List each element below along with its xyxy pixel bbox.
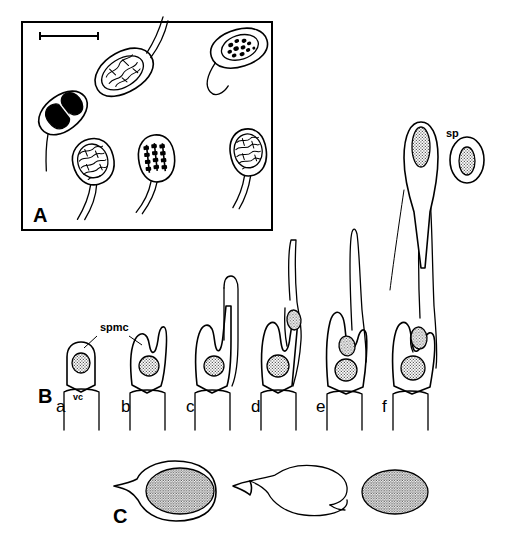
panel-c: C — [113, 461, 428, 527]
stage-e: e — [316, 229, 367, 430]
intact-spermatozoid — [114, 461, 216, 521]
free-spermatozoid-sp — [450, 137, 484, 183]
stage-e-nucleus — [335, 359, 357, 381]
stage-a: a vc — [56, 342, 99, 430]
panel-a: A — [14, 16, 279, 230]
cell-reticulate-right — [222, 127, 273, 210]
stage-c-nucleus — [204, 356, 224, 376]
stage-letter-d: d — [251, 397, 260, 416]
stage-letter-e: e — [316, 397, 325, 416]
stage-c-spermatocyte — [196, 306, 231, 393]
panel-a-letter: A — [33, 204, 47, 226]
stage-letter-f: f — [382, 397, 387, 416]
stage-b-nucleus — [139, 356, 159, 376]
scale-bar — [40, 32, 98, 40]
label-spmc: spmc — [100, 321, 129, 333]
stage-c-vegetative-cell — [195, 390, 230, 430]
stage-a-nucleus — [72, 353, 90, 373]
panel-b-letter: B — [38, 385, 52, 407]
figure-canvas: A sp a vc b c — [0, 0, 507, 559]
free-nucleus — [362, 470, 428, 514]
opened-envelope — [233, 465, 347, 515]
stage-d-vegetative-cell — [261, 390, 296, 430]
stage-d: d — [251, 240, 302, 430]
stage-f-nucleus — [401, 356, 425, 380]
opened-envelope-beak — [233, 481, 252, 495]
stage-d-nucleus — [267, 355, 289, 377]
label-vc: vc — [73, 392, 83, 402]
stage-letter-c: c — [186, 397, 195, 416]
opened-envelope-top — [250, 465, 347, 505]
stage-b-vegetative-cell — [130, 390, 165, 430]
figure-root: A sp a vc b c — [0, 0, 507, 559]
panel-c-letter: C — [113, 505, 127, 527]
stage-letter-a: a — [56, 397, 66, 416]
label-sp: sp — [446, 127, 459, 139]
cell-clumped-upperright — [193, 22, 278, 97]
cell-reticulate-lower — [59, 134, 126, 221]
stage-b: b — [121, 327, 167, 430]
emerged-spermatozoid — [390, 122, 438, 290]
stage-e-vegetative-cell — [327, 391, 362, 430]
stage-f-vegetative-cell — [393, 391, 428, 430]
intact-nucleus — [146, 468, 214, 514]
stage-c: c — [186, 276, 238, 430]
stage-letter-b: b — [121, 397, 130, 416]
cell-reticulate-upper — [83, 16, 189, 106]
opened-envelope-bottom — [250, 481, 341, 516]
stage-d-spermatozoid-nucleus — [286, 309, 302, 330]
cell-chromosome-bands — [128, 133, 180, 214]
